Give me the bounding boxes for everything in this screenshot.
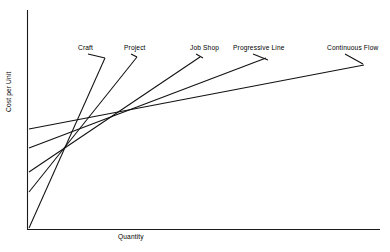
- leader-line-continuous-flow: [345, 54, 363, 64]
- leader-line-project: [131, 54, 137, 57]
- chart-canvas: [0, 0, 390, 252]
- series-line-progressive: [29, 58, 266, 148]
- leader-line-craft: [88, 54, 105, 58]
- series-label-job-shop: Job Shop: [190, 45, 219, 52]
- series-label-continuous-flow: Continuous Flow: [327, 45, 378, 52]
- series-line-continuous-flow: [29, 65, 364, 129]
- cost-per-unit-chart: Craft Project Job Shop Progressive Line …: [0, 0, 390, 252]
- x-axis-title: Quantity: [118, 234, 144, 241]
- leader-line-progressive: [253, 54, 268, 60]
- series-line-craft: [29, 58, 105, 228]
- y-axis-title: Cost per Unit: [6, 72, 13, 112]
- series-label-progressive-line: Progressive Line: [233, 45, 285, 52]
- series-line-project: [29, 57, 137, 192]
- series-label-craft: Craft: [78, 45, 93, 52]
- series-line-job-shop: [29, 57, 200, 172]
- series-label-project: Project: [124, 45, 146, 52]
